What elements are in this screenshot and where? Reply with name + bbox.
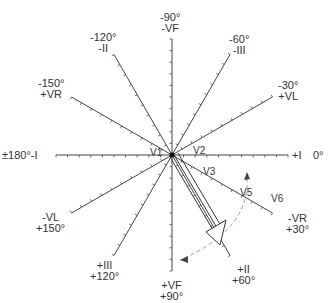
lead-v3: V3 — [203, 167, 215, 177]
label-0-deg: 0° — [313, 150, 324, 161]
lead-v1: V1 — [150, 148, 162, 158]
axis-label-m30: -30°+VL — [278, 80, 298, 102]
center-point — [170, 153, 175, 158]
axis-label-m90: -90°-VF — [160, 12, 180, 34]
lead-v5: V5 — [240, 188, 252, 198]
axis-label-p90: +VF+90° — [160, 280, 183, 302]
lead-v6: V6 — [271, 194, 283, 204]
axis-label-p60: +II+60° — [232, 264, 255, 286]
axis-lines — [0, 0, 332, 303]
axis-label-m120: -120°-II — [90, 32, 116, 54]
axis-label-p30: -VR+30° — [286, 213, 309, 235]
axis-label-p150: -VL+150° — [36, 212, 65, 234]
arc-arrowhead-bottom — [180, 256, 188, 263]
hexaxial-diagram: -90°-VF-60°-III-30°+VL-120°-II-150°+VR-V… — [0, 0, 332, 303]
arc-arrowhead-top — [244, 172, 250, 180]
lead-v2: V2 — [193, 146, 205, 156]
axis-label-m60: -60°-III — [229, 34, 249, 56]
label-180: ±180°-I — [2, 150, 38, 161]
label-0-lead: +I — [292, 150, 301, 161]
axis-label-p120: +III+120° — [90, 260, 119, 282]
axis-label-m150: -150°+VR — [38, 78, 64, 100]
